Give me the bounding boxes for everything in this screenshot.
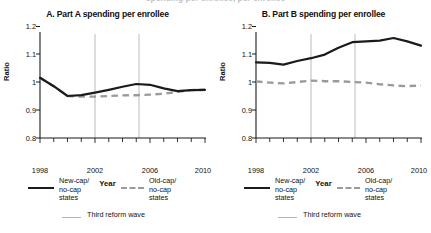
x-tick-label: 1998 — [248, 166, 264, 175]
x-tick-label: 1998 — [32, 166, 48, 175]
x-tick-label: 2002 — [303, 166, 319, 175]
panel-a-reform-vlines — [95, 34, 139, 138]
panel-a-y-ticks: 0.8 0.9 1 1.1 1.2 — [14, 26, 36, 138]
y-tick-label: 1 — [230, 78, 252, 87]
legend-label-line: states — [59, 194, 115, 203]
panel-b: B. Part B spending per enrollee Ratio 0.… — [216, 0, 431, 233]
legend-label-new-cap: New-cap/ no-cap states — [275, 177, 331, 203]
y-tick-label: 1.2 — [14, 22, 36, 31]
legend-label-reform-wave: Third reform wave — [87, 211, 145, 220]
y-tick-label: 1 — [14, 78, 36, 87]
legend-label-old-cap: Old-cap/ no-cap states — [149, 177, 205, 203]
x-tick-label: 2006 — [358, 166, 374, 175]
panel-a-legend: New-cap/ no-cap states Old-cap/ no-cap s… — [0, 176, 215, 233]
panel-b-series-old-cap — [256, 81, 421, 87]
x-tick-label: 2006 — [142, 166, 158, 175]
y-tick-label: 0.8 — [14, 134, 36, 143]
y-tick-label: 0.9 — [14, 106, 36, 115]
panel-a-y-axis-label: Ratio — [2, 62, 11, 81]
legend-label-old-cap: Old-cap/ no-cap states — [365, 177, 421, 203]
panel-b-title: B. Part B spending per enrollee — [216, 9, 431, 19]
panel-b-legend: New-cap/ no-cap states Old-cap/ no-cap s… — [216, 176, 431, 233]
legend-solid-line-icon — [244, 187, 270, 193]
panel-a-title: A. Part A spending per enrollee — [0, 9, 215, 19]
panel-b-series-new-cap — [256, 38, 421, 65]
panel-b-plot-area: Ratio 0.8 0.9 1 1.1 1.2 — [216, 26, 431, 138]
panel-a-series-new-cap — [40, 78, 205, 96]
legend-label-line: states — [149, 194, 205, 203]
x-tick-label: 2010 — [195, 166, 211, 175]
panel-b-y-axis-label: Ratio — [218, 62, 227, 81]
legend-label-new-cap: New-cap/ no-cap states — [59, 177, 115, 203]
legend-label-line: states — [365, 194, 421, 203]
legend-dashed-line-icon — [337, 187, 360, 193]
legend-item-reform-wave: Third reform wave — [216, 210, 431, 226]
legend-dashed-line-icon — [121, 187, 144, 193]
x-tick-label: 2010 — [411, 166, 427, 175]
y-tick-label: 1.1 — [230, 50, 252, 59]
panel-a-plot-area: Ratio 0.8 0.9 1 1.1 1.2 — [0, 26, 215, 138]
panel-a: A. Part A spending per enrollee Ratio 0.… — [0, 0, 215, 233]
legend-label-reform-wave: Third reform wave — [303, 211, 361, 220]
legend-thin-line-icon — [62, 217, 81, 218]
y-tick-label: 1.1 — [14, 50, 36, 59]
x-tick-label: 2002 — [87, 166, 103, 175]
legend-label-line: states — [275, 194, 331, 203]
legend-thin-line-icon — [278, 217, 297, 218]
y-tick-label: 0.8 — [230, 134, 252, 143]
legend-item-reform-wave: Third reform wave — [0, 210, 215, 226]
y-tick-label: 0.9 — [230, 106, 252, 115]
panel-a-axes — [36, 27, 206, 144]
y-tick-label: 1.2 — [230, 22, 252, 31]
legend-solid-line-icon — [28, 187, 54, 193]
panel-b-axes — [252, 27, 422, 144]
figure-two-panel-line-charts: spending per enrollee, per enrollee A. P… — [0, 0, 431, 233]
panel-b-y-ticks: 0.8 0.9 1 1.1 1.2 — [230, 26, 252, 138]
